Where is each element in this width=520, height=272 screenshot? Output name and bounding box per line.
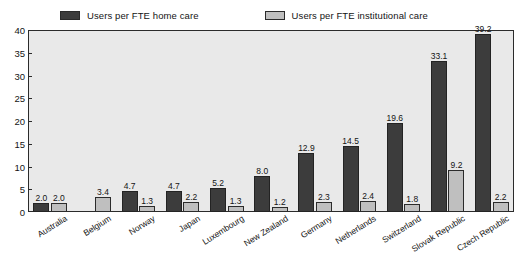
- bar-group: 33.19.2: [426, 30, 470, 212]
- bar-value-label: 33.1: [431, 52, 448, 61]
- legend-swatch-home-care-icon: [60, 11, 80, 20]
- x-axis-category-label: Belgium: [82, 214, 113, 238]
- bar-home-care: 5.2: [210, 188, 226, 212]
- y-axis-tick-label: 5: [1, 185, 25, 194]
- bar-value-label: 2.0: [53, 194, 65, 203]
- bar-group: 4.71.3: [116, 30, 160, 212]
- bar-home-care: 12.9: [298, 153, 314, 212]
- bar-value-label: 19.6: [387, 114, 404, 123]
- legend-label-institutional-care: Users per FTE institutional care: [292, 10, 428, 21]
- bar-institutional-care: 9.2: [448, 170, 464, 212]
- bar-value-label: 2.4: [362, 192, 374, 201]
- bar-group: 5.21.3: [205, 30, 249, 212]
- y-axis-tick-label: 30: [1, 71, 25, 80]
- bar-value-label: 14.5: [342, 137, 359, 146]
- y-axis-tick-label: 15: [1, 139, 25, 148]
- bar-home-care: 39.2: [475, 34, 491, 212]
- y-axis-tick-label: 35: [1, 48, 25, 57]
- bar-group: 19.61.8: [381, 30, 425, 212]
- legend-entry-institutional-care: Users per FTE institutional care: [265, 10, 428, 21]
- x-axis-category-label: Luxembourg: [201, 214, 246, 247]
- bar-value-label: 5.2: [212, 179, 224, 188]
- bar-value-label: 1.3: [141, 197, 153, 206]
- bar-institutional-care: 1.8: [404, 204, 420, 212]
- x-axis-category-label: Japan: [177, 214, 201, 234]
- bar-institutional-care: 2.2: [493, 202, 509, 212]
- x-axis-category-label: Australia: [36, 214, 69, 239]
- legend-label-home-care: Users per FTE home care: [87, 10, 199, 21]
- legend-swatch-institutional-care-icon: [265, 11, 285, 20]
- bar-value-label: 2.2: [495, 193, 507, 202]
- x-axis-labels: AustraliaBelgiumNorwayJapanLuxembourgNew…: [28, 212, 514, 272]
- y-axis-tick-label: 20: [1, 117, 25, 126]
- bar-group: 2.02.0: [28, 30, 72, 212]
- bar-value-label: 8.0: [256, 167, 268, 176]
- bar-group: 4.72.2: [161, 30, 205, 212]
- bar-value-label: 3.4: [97, 188, 109, 197]
- y-axis-tick-label: 10: [1, 162, 25, 171]
- legend-entry-home-care: Users per FTE home care: [60, 10, 199, 21]
- x-axis-category-label: Norway: [128, 214, 157, 237]
- y-axis-tick-label: 25: [1, 94, 25, 103]
- bar-institutional-care: 3.4: [95, 197, 111, 212]
- x-axis-category-label: Germany: [300, 214, 334, 240]
- x-axis-category-label: Netherlands: [334, 214, 378, 246]
- bar-value-label: 2.0: [35, 194, 47, 203]
- x-axis-category-label: New Zealand: [243, 214, 290, 248]
- bar-home-care: 33.1: [431, 61, 447, 212]
- bar-value-label: 4.7: [124, 182, 136, 191]
- bar-institutional-care: 2.0: [51, 203, 67, 212]
- bar-group: 12.92.3: [293, 30, 337, 212]
- bar-value-label: 12.9: [298, 144, 315, 153]
- bar-value-label: 1.2: [274, 198, 286, 207]
- bar-home-care: 14.5: [343, 146, 359, 212]
- bar-institutional-care: 2.2: [183, 202, 199, 212]
- bar-value-label: 2.3: [318, 193, 330, 202]
- bar-value-label: 1.8: [406, 195, 418, 204]
- bar-institutional-care: 2.3: [316, 202, 332, 212]
- bar-institutional-care: 2.4: [360, 201, 376, 212]
- bar-home-care: 8.0: [254, 176, 270, 212]
- bar-value-label: 4.7: [168, 182, 180, 191]
- bar-value-label: 2.2: [185, 193, 197, 202]
- bar-group: 14.52.4: [337, 30, 381, 212]
- bar-value-label: 9.2: [451, 161, 463, 170]
- bar-home-care: 4.7: [166, 191, 182, 212]
- bar-value-label: 1.3: [230, 197, 242, 206]
- bar-home-care: 4.7: [122, 191, 138, 212]
- bar-group: 8.01.2: [249, 30, 293, 212]
- bar-chart: Users per FTE home care Users per FTE in…: [0, 0, 520, 272]
- bar-group: 39.22.2: [470, 30, 514, 212]
- chart-legend: Users per FTE home care Users per FTE in…: [60, 6, 460, 24]
- bar-group: 3.4: [72, 30, 116, 212]
- bar-home-care: 2.0: [33, 203, 49, 212]
- y-axis-tick-label: 40: [1, 26, 25, 35]
- bar-value-label: 39.2: [475, 25, 492, 34]
- y-axis-tick-label: 0: [1, 208, 25, 217]
- bars-layer: 2.02.03.44.71.34.72.25.21.38.01.212.92.3…: [28, 30, 514, 212]
- bar-home-care: 19.6: [387, 123, 403, 212]
